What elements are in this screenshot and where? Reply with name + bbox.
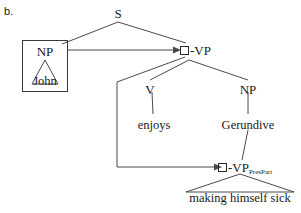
terminal-gerundive: Gerundive [222,119,275,132]
edge-vp-to-np [189,60,248,80]
node-vp-upper: -VP [180,44,211,57]
empty-square-icon-vp-upper [180,46,189,55]
terminal-john: John [33,74,57,89]
terminal-enjoys: enjoys [138,119,171,132]
node-vp-upper-label: -VP [190,43,211,58]
edge-s-to-vp [118,22,186,43]
tree-edges-layer [0,0,301,213]
node-s: S [114,7,121,20]
node-np-object: NP [240,83,257,96]
arrow-vp-control-shaft [117,57,219,167]
node-vp-lower: -VPPresPart [218,161,272,176]
node-np-subject: NP [37,44,54,60]
empty-square-icon-vp-lower [218,163,227,172]
node-vp-lower-label: -VP [228,160,249,175]
edge-s-to-np [62,22,118,44]
terminal-making-himself-sick: making himself sick [189,192,290,205]
syntax-tree-figure: b. S NP John -VP V enjoys [0,0,301,213]
np-subject-box: NP John [22,40,68,92]
node-vp-lower-subscript: PresPart [249,168,272,176]
edge-gerundive-to-vp-lower [242,130,248,160]
triangle-icon-vp-lower [186,174,294,192]
node-v: V [145,83,154,96]
